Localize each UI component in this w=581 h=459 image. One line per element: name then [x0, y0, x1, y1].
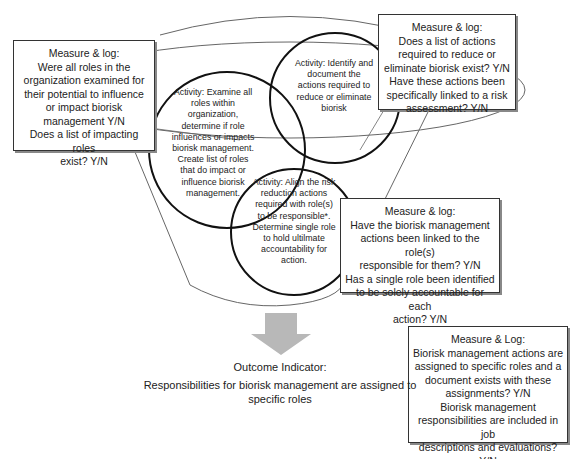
down-arrow-icon — [251, 313, 311, 355]
activity-identify-actions: Activity: Identify and document the acti… — [284, 58, 384, 114]
outcome-text: specific roles — [130, 392, 430, 406]
measure-box-outcome: Measure & Log: Biorisk management action… — [408, 326, 568, 443]
measure-box-actions-list: Measure & log: Does a list of actions re… — [378, 14, 516, 110]
measure-box-roles-examined: Measure & log: Were all roles in the org… — [13, 40, 155, 151]
measure-box-actions-linked: Measure & log: Have the biorisk manageme… — [340, 198, 500, 293]
outcome-indicator: Outcome Indicator: Responsibilities for … — [130, 360, 430, 406]
outcome-label: Outcome Indicator: — [130, 360, 430, 374]
measure-title: Measure & log: — [383, 21, 511, 35]
measure-title: Measure & log: — [345, 205, 495, 219]
measure-title: Measure & Log: — [413, 333, 563, 347]
activity-align-actions: Activity: Align the risk reduction actio… — [242, 177, 346, 267]
measure-title: Measure & log: — [18, 47, 150, 61]
outcome-text: Responsibilities for biorisk management … — [130, 378, 430, 392]
